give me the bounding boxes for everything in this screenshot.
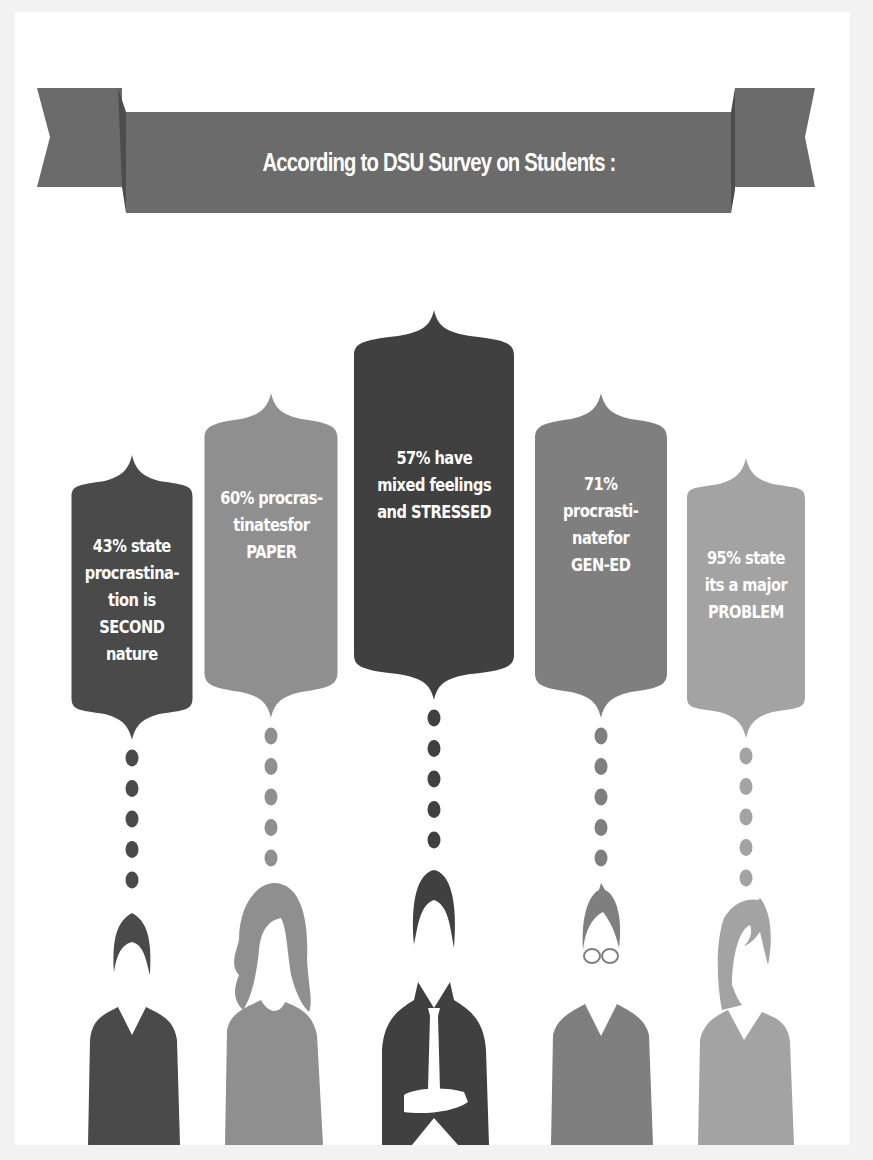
person-hair xyxy=(413,870,455,948)
stat-text-content: 71% procrasti- natefor GEN-ED xyxy=(563,471,638,579)
stat-text-2: 60% procras- tinatesfor PAPER xyxy=(195,450,348,600)
connector-dot xyxy=(126,811,139,828)
stat-text-content: 57% have mixed feelings and STRESSED xyxy=(377,445,491,526)
connector-dot xyxy=(595,850,608,867)
connector-dot xyxy=(265,789,278,806)
connector-dot xyxy=(740,778,753,795)
stat-text-content: 95% state its a major PROBLEM xyxy=(705,545,787,626)
stat-text-3: 57% have mixed feelings and STRESSED xyxy=(344,430,524,540)
glasses-icon xyxy=(602,949,618,963)
connector-dot xyxy=(740,809,753,826)
person-hair xyxy=(718,898,771,1010)
connector-dot xyxy=(428,801,441,818)
connector-dot xyxy=(265,819,278,836)
people-figures xyxy=(88,870,794,1145)
person-man-short-hair xyxy=(88,913,180,1145)
connector-dot xyxy=(126,872,139,889)
person-hair xyxy=(583,883,621,950)
person-woman-long-hair xyxy=(225,883,323,1145)
banner-title-text: According to DSU Survey on Students : xyxy=(262,147,615,178)
person-hair xyxy=(234,883,311,1012)
connector-dot xyxy=(265,728,278,745)
connector-dot xyxy=(740,839,753,856)
connector-dots xyxy=(126,710,753,889)
person-man-suit-tie-arms-crossed xyxy=(382,870,489,1145)
person-hair xyxy=(114,913,151,975)
stat-text-content: 43% state procrastina- tion is SECOND na… xyxy=(85,533,179,668)
connector-dot xyxy=(126,780,139,797)
connector-dot xyxy=(428,832,441,849)
connector-dot xyxy=(428,710,441,727)
banner-title: According to DSU Survey on Students : xyxy=(193,112,686,213)
person-body xyxy=(225,1000,323,1145)
connector-dot xyxy=(126,841,139,858)
person-body xyxy=(88,1007,180,1145)
connector-dot xyxy=(265,850,278,867)
connector-dot xyxy=(595,728,608,745)
connector-dot xyxy=(265,758,278,775)
stat-text-5: 95% state its a major PROBLEM xyxy=(677,535,815,635)
connector-dot xyxy=(428,771,441,788)
banner-right-tail xyxy=(735,88,815,187)
connector-dot xyxy=(595,819,608,836)
connector-dot xyxy=(595,789,608,806)
glasses-icon xyxy=(584,949,600,963)
stat-text-1: 43% state procrastina- tion is SECOND na… xyxy=(62,500,203,700)
connector-dot xyxy=(126,750,139,767)
connector-dot xyxy=(740,748,753,765)
stat-text-content: 60% procras- tinatesfor PAPER xyxy=(220,485,322,566)
connector-dot xyxy=(428,740,441,757)
connector-dot xyxy=(595,758,608,775)
person-body xyxy=(698,1010,794,1145)
person-body xyxy=(551,1004,653,1145)
stat-text-4: 71% procrasti- natefor GEN-ED xyxy=(525,455,677,595)
banner-right-fold xyxy=(731,88,735,213)
person-man-glasses xyxy=(551,883,653,1145)
person-woman-side-fringe xyxy=(698,898,794,1145)
banner-left-tail xyxy=(37,88,122,187)
connector-dot xyxy=(740,870,753,887)
